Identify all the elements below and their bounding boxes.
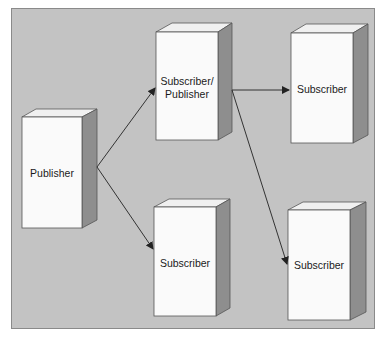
box-side-face xyxy=(216,199,230,316)
node-label: Subscriber xyxy=(160,257,211,269)
box-side-face xyxy=(82,109,97,228)
node-subscriber-bottom-middle: Subscriber xyxy=(154,199,230,316)
node-label: Subscriber xyxy=(294,259,345,271)
box-side-face xyxy=(353,24,368,143)
node-subscriber-bottom-right: Subscriber xyxy=(288,202,366,320)
box-side-face xyxy=(350,202,366,320)
box-side-face xyxy=(218,23,232,140)
node-label: Publisher xyxy=(30,167,74,179)
node-label-line-1: Subscriber/ xyxy=(160,75,213,87)
node-subscriber-publisher: Subscriber/ Publisher xyxy=(156,23,232,140)
node-subscriber-top-right: Subscriber xyxy=(291,24,368,143)
node-label: Subscriber xyxy=(297,83,348,95)
node-publisher: Publisher xyxy=(22,109,97,228)
arrow-subpub-to-subscriber-bottom-right xyxy=(232,90,287,264)
arrow-publisher-to-subpub xyxy=(97,88,155,167)
arrow-publisher-to-subscriber-bottom-middle xyxy=(97,167,153,249)
node-label-line-2: Publisher xyxy=(165,88,209,100)
pubsub-diagram: Publisher Subscriber/ Publisher Subscrib… xyxy=(0,0,387,341)
